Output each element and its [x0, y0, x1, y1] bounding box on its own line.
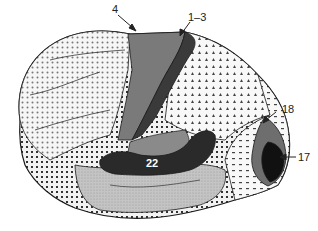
- label-area-1-3: 1–3: [188, 12, 206, 23]
- brain-illustration: [0, 0, 318, 231]
- label-area-22: 22: [146, 158, 158, 169]
- label-area-4: 4: [112, 4, 118, 15]
- label-area-17: 17: [298, 152, 310, 163]
- brain-diagram: 4 1–3 18 17 22: [0, 0, 318, 231]
- label-area-18: 18: [282, 104, 294, 115]
